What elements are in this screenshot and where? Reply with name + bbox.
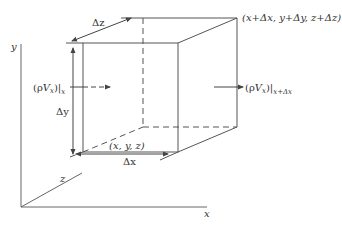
dz-label: Δz: [92, 17, 105, 28]
coordinate-axes: [21, 44, 207, 207]
control-volume-diagram: y x z Δz Δy Δx (x, y, z) (x+Δx, y+Δy, z+…: [0, 0, 342, 227]
dy-label: Δy: [56, 106, 69, 117]
dimension-arrows: [72, 18, 168, 154]
flux-in-eval: x: [61, 88, 65, 96]
bottom-right-extension: [160, 152, 178, 160]
flux-in-open: (ρ: [33, 82, 43, 93]
cube: [66, 18, 237, 160]
flux-in-label-group: (ρVx)|x: [33, 82, 65, 96]
flux-out-open: (ρ: [245, 82, 255, 93]
flux-in-close: )|: [54, 82, 61, 94]
flux-out-label-group: (ρVx)|x+Δx: [245, 82, 292, 96]
svg-text:(ρVx)|x+Δx: (ρVx)|x+Δx: [245, 82, 292, 96]
flux-out-close: )|: [266, 82, 273, 94]
top-right-depth-edge: [178, 18, 237, 43]
dx-label: Δx: [123, 156, 136, 167]
front-face: [83, 43, 178, 152]
x-axis-label: x: [204, 208, 210, 219]
z-axis: [21, 173, 82, 207]
y-axis-label: y: [10, 41, 17, 52]
bottom-right-depth-edge: [178, 127, 237, 152]
z-axis-label: z: [59, 173, 66, 184]
far-corner-label: (x+Δx, y+Δy, z+Δz): [242, 12, 341, 23]
flux-out-eval: x+Δx: [273, 88, 292, 96]
svg-text:(ρVx)|x: (ρVx)|x: [33, 82, 65, 96]
origin-corner-label: (x, y, z): [109, 140, 145, 151]
